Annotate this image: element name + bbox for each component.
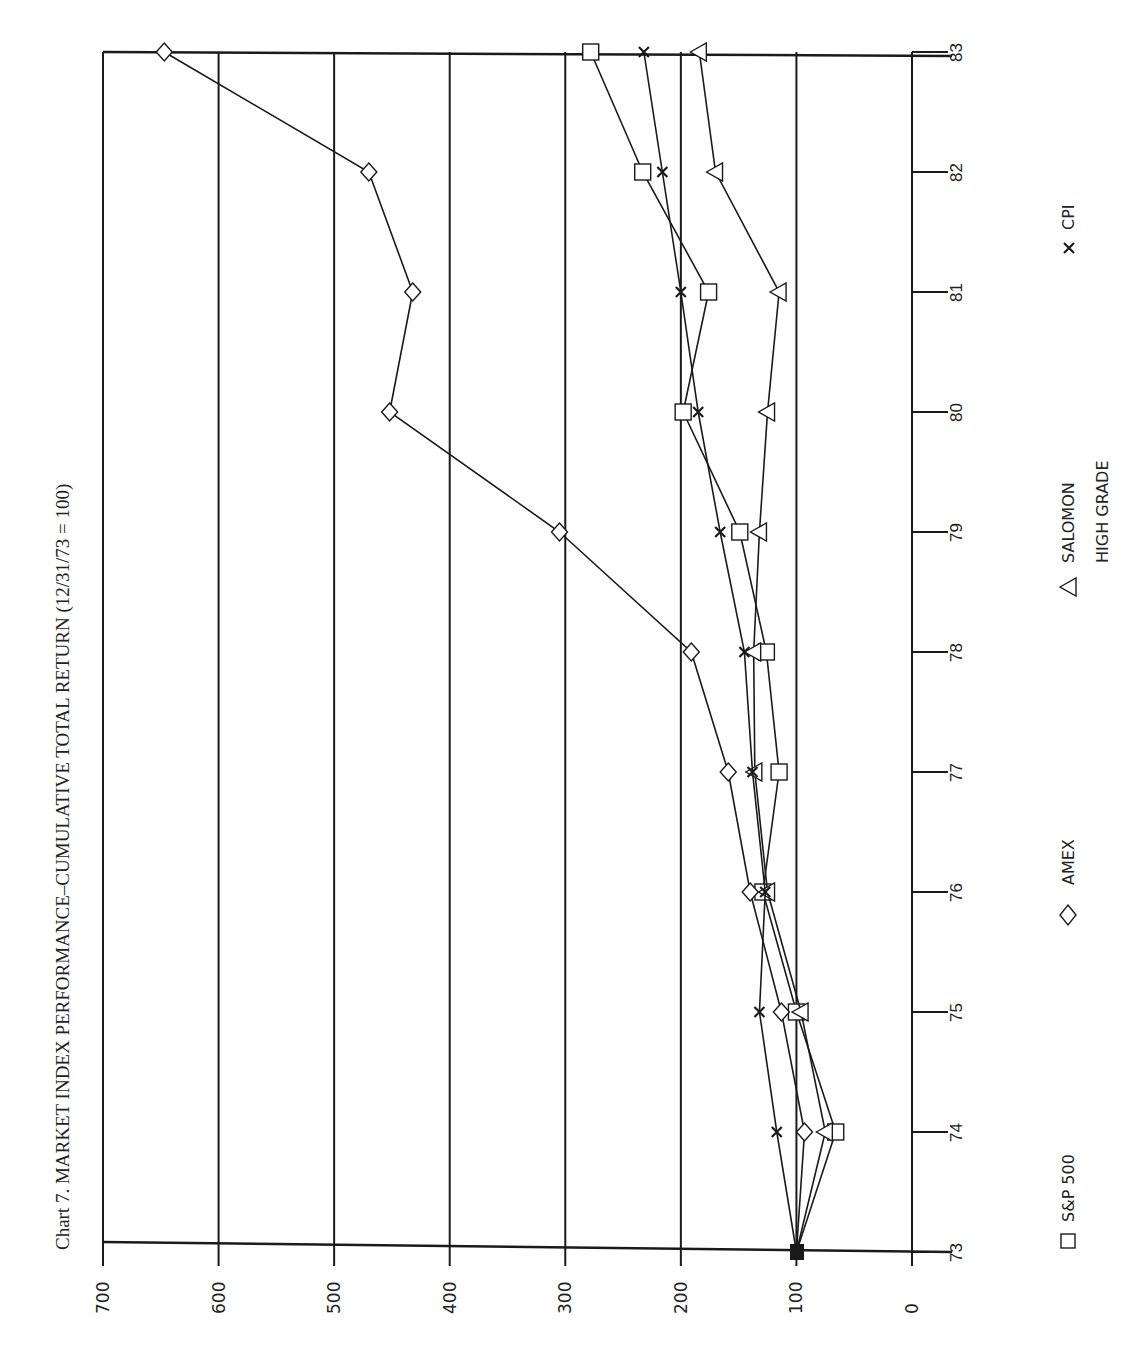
series-line [591, 52, 836, 1252]
market-index-chart: Chart 7. MARKET INDEX PERFORMANCE–CUMULA… [0, 0, 1128, 1361]
legend-item-amex: AMEX [1059, 839, 1078, 925]
baseline-axis [103, 1242, 952, 1252]
square-marker-icon [701, 284, 717, 300]
grid-lines [103, 52, 912, 1266]
year-tick-label: 74 [947, 1123, 966, 1142]
series-salomon-high-grade [690, 43, 832, 1252]
diamond-marker-icon [797, 1123, 813, 1141]
axes [103, 52, 952, 1252]
chart-title: Chart 7. MARKET INDEX PERFORMANCE–CUMULA… [52, 484, 74, 1250]
year-tick-label: 76 [947, 883, 966, 902]
legend-label-sp500: S&P 500 [1059, 1154, 1078, 1222]
series-amex [156, 43, 812, 1252]
square-marker-icon [583, 44, 599, 60]
year-tick-label: 75 [947, 1003, 966, 1022]
diamond-marker-icon [683, 643, 699, 661]
diamond-marker-icon [361, 163, 377, 181]
data-series [156, 43, 843, 1252]
legend-item-cpi: CPI [1059, 204, 1078, 253]
value-tick-label: 100 [786, 1282, 806, 1314]
legend-label-salomon-line1: SALOMON [1059, 482, 1078, 563]
value-axis-tick-labels: 7006005004003002001000 [93, 1282, 922, 1314]
legend-item-salomon: SALOMON HIGH GRADE [1059, 460, 1112, 596]
year-tick-label: 73 [947, 1243, 966, 1262]
square-marker-icon [1061, 1234, 1075, 1248]
value-tick-label: 400 [440, 1282, 460, 1314]
diamond-marker-icon [720, 763, 736, 781]
diamond-marker-icon [405, 283, 421, 301]
square-marker-icon [675, 404, 691, 420]
value-tick-label: 700 [93, 1282, 113, 1314]
year-tick-label: 80 [947, 403, 966, 422]
year-tick-label: 79 [947, 523, 966, 542]
triangle-marker-icon [690, 43, 706, 61]
diamond-marker-icon [382, 403, 398, 421]
diamond-marker-icon [156, 43, 172, 61]
year-tick-label: 82 [947, 163, 966, 182]
legend: S&P 500 AMEX SALOMON HIGH GRADE CPI [1059, 204, 1112, 1248]
square-marker-icon [732, 524, 748, 540]
legend-label-cpi: CPI [1059, 204, 1078, 230]
series-s-p-500 [583, 44, 844, 1252]
value-tick-label: 300 [555, 1282, 575, 1314]
value-tick-label: 500 [324, 1282, 344, 1314]
origin-marker [790, 1244, 804, 1260]
diamond-marker-icon [1060, 905, 1076, 925]
year-tick-label: 77 [947, 763, 966, 782]
year-tick-label: 78 [947, 643, 966, 662]
legend-label-amex: AMEX [1059, 839, 1078, 885]
diamond-marker-icon [773, 1003, 789, 1021]
legend-item-sp500: S&P 500 [1059, 1154, 1078, 1248]
square-marker-icon [771, 764, 787, 780]
year-axis-tick-labels: 7374757677787980818283 [947, 43, 966, 1262]
value-tick-label: 200 [671, 1282, 691, 1314]
top-border [103, 52, 952, 56]
triangle-marker-icon [745, 643, 761, 661]
value-tick-label: 600 [209, 1282, 229, 1314]
triangle-marker-icon [1060, 578, 1076, 596]
year-tick-label: 81 [947, 283, 966, 302]
value-tick-label: 0 [902, 1303, 922, 1314]
series-line [164, 52, 804, 1252]
legend-label-salomon-line2: HIGH GRADE [1093, 460, 1112, 563]
x-marker-icon [1064, 243, 1074, 253]
year-tick-label: 83 [947, 43, 966, 62]
square-marker-icon [635, 164, 651, 180]
